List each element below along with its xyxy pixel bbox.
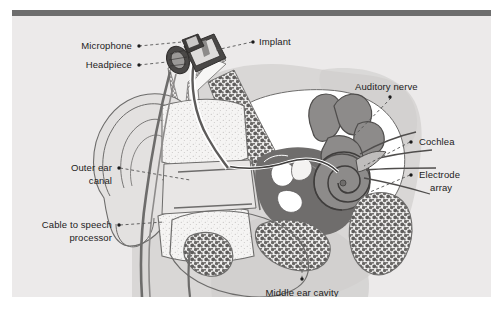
dot-electrode-array — [409, 173, 412, 176]
figure-root: Microphone Headpiece Implant Auditory ne… — [0, 0, 503, 321]
label-auditory-nerve: Auditory nerve — [355, 81, 418, 92]
dot-microphone — [137, 44, 140, 47]
label-cable-line1: Cable to speech — [12, 219, 112, 230]
leader-microphone — [139, 42, 182, 46]
label-outer-ear-canal-line2: canal — [12, 175, 112, 186]
dot-auditory-nerve — [388, 95, 391, 98]
label-electrode-array-line1: Electrode — [419, 169, 460, 180]
label-cochlea: Cochlea — [419, 136, 455, 147]
label-cable-line2: processor — [12, 232, 112, 243]
dot-cochlea — [409, 140, 412, 143]
label-middle-ear-cavity: Middle ear cavity — [242, 287, 362, 297]
dot-headpiece — [137, 63, 140, 66]
dot-middle-ear — [300, 277, 303, 280]
label-headpiece: Headpiece — [12, 59, 132, 70]
mastoid-air-cells-main — [349, 193, 412, 275]
label-microphone: Microphone — [12, 40, 132, 51]
label-outer-ear-canal-line1: Outer ear — [12, 162, 112, 173]
label-electrode-array-line2: array — [430, 182, 452, 193]
illustration-panel: Microphone Headpiece Implant Auditory ne… — [12, 10, 491, 297]
cochlear-implant-illustration — [12, 10, 491, 297]
dot-outer-ear-canal — [117, 166, 120, 169]
dot-implant — [251, 40, 254, 43]
leader-headpiece — [139, 62, 167, 65]
dot-cable — [117, 223, 120, 226]
label-implant: Implant — [259, 36, 291, 47]
